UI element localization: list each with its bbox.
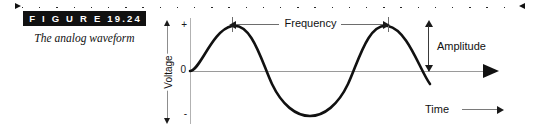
figure-number-label: F I G U R E 19.24 (27, 13, 142, 24)
amplitude-label: Amplitude (437, 40, 486, 52)
frequency-arrowhead-right-icon (383, 21, 390, 29)
frequency-label: Frequency (279, 17, 342, 29)
frequency-arrowhead-left-icon (229, 21, 236, 29)
rule-right-triangle-icon (519, 3, 525, 9)
rule-left-triangle-icon (15, 3, 21, 9)
frequency-line-right (341, 24, 386, 25)
voltage-arrow-down-icon (164, 118, 170, 124)
y-tick-positive: + (173, 19, 187, 30)
frequency-line-left (236, 24, 279, 25)
figure-caption: The analog waveform (23, 32, 146, 44)
time-axis-label: Time (425, 103, 449, 115)
amplitude-arrowhead-down-icon (425, 65, 433, 72)
dotted-rule-line (22, 7, 512, 8)
figure-container: F I G U R E 19.24 The analog waveform Vo… (0, 0, 537, 129)
y-tick-negative: - (173, 108, 187, 119)
x-axis-arrowhead-icon (483, 64, 499, 78)
time-arrowhead-icon (497, 106, 504, 114)
figure-number-bar: F I G U R E 19.24 (23, 11, 146, 26)
x-axis-line (190, 71, 485, 72)
y-tick-zero: 0 (172, 64, 186, 75)
time-arrow-line (462, 109, 498, 110)
